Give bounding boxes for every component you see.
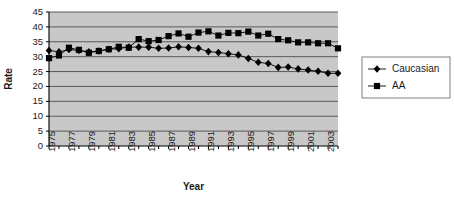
data-point	[335, 45, 341, 51]
y-tick-label: 40	[32, 21, 43, 32]
data-point	[96, 48, 102, 54]
y-tick-label: 10	[32, 110, 43, 121]
y-tick-label: 5	[38, 125, 43, 136]
x-tick-label: 2003	[325, 131, 336, 152]
rate-by-year-line-chart: 051015202530354045 197519771979198119831…	[0, 0, 454, 201]
x-tick-label: 1999	[285, 131, 296, 152]
y-tick-label: 15	[32, 95, 43, 106]
data-point	[46, 55, 52, 61]
x-tick-label: 1985	[146, 131, 157, 152]
x-tick-label: 1975	[46, 131, 57, 152]
x-tick-label: 1989	[186, 131, 197, 152]
x-tick-label: 2001	[305, 131, 316, 152]
data-point	[325, 40, 331, 46]
x-axis-tick-labels: 1975197719791981198319851987198919911993…	[46, 131, 336, 152]
data-point	[275, 36, 281, 42]
y-tick-label: 35	[32, 36, 43, 47]
y-tick-label: 0	[38, 140, 43, 151]
data-point	[255, 32, 261, 38]
x-tick-label: 1995	[245, 131, 256, 152]
data-point	[215, 32, 221, 38]
x-tick-label: 1997	[265, 131, 276, 152]
legend-label: Caucasian	[392, 63, 439, 74]
y-axis-title: Rate	[3, 68, 14, 90]
x-tick-label: 1993	[225, 131, 236, 152]
chart-legend: CaucasianAA	[362, 57, 450, 98]
data-point	[295, 39, 301, 45]
data-point	[76, 47, 82, 53]
chart-container: 051015202530354045 197519771979198119831…	[0, 0, 454, 201]
data-point	[116, 44, 122, 50]
data-point	[245, 29, 251, 35]
plot-area-background	[49, 12, 338, 146]
legend-label: AA	[392, 80, 406, 91]
data-point	[165, 33, 171, 39]
data-point	[285, 37, 291, 43]
data-point	[305, 39, 311, 45]
x-tick-label: 1977	[66, 131, 77, 152]
data-point	[56, 52, 62, 58]
data-point	[66, 45, 72, 51]
data-point	[315, 40, 321, 46]
data-point	[205, 28, 211, 34]
x-tick-label: 1981	[106, 131, 117, 152]
data-point	[106, 46, 112, 52]
data-point	[86, 50, 92, 56]
data-point	[136, 36, 142, 42]
x-tick-label: 1979	[86, 131, 97, 152]
data-point	[235, 30, 241, 36]
data-point	[126, 45, 132, 51]
data-point	[225, 30, 231, 36]
y-tick-label: 25	[32, 66, 43, 77]
square-marker-icon	[374, 83, 380, 89]
data-point	[156, 37, 162, 43]
x-tick-label: 1987	[166, 131, 177, 152]
x-axis-title: Year	[183, 181, 204, 192]
data-point	[185, 34, 191, 40]
data-point	[175, 30, 181, 36]
x-tick-label: 1983	[126, 131, 137, 152]
x-tick-label: 1991	[205, 131, 216, 152]
data-point	[265, 31, 271, 37]
y-tick-label: 30	[32, 51, 43, 62]
data-point	[195, 29, 201, 35]
data-point	[146, 38, 152, 44]
y-tick-label: 45	[32, 6, 43, 17]
y-tick-label: 20	[32, 80, 43, 91]
